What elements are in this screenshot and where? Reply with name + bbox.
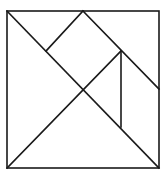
segment-top-mid-to-left-diag	[46, 11, 83, 51]
tangram-diagram	[0, 0, 166, 176]
segments-group	[7, 11, 159, 168]
segment-diagonal-bottom-left-to-mid	[7, 51, 121, 168]
